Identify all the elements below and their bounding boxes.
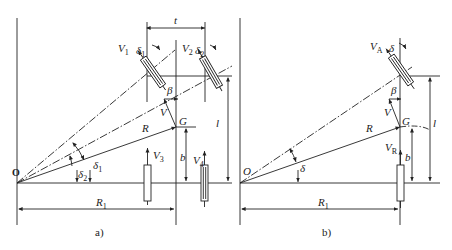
rear-left-wheel [144,148,151,205]
label-delta2: δ2 [78,169,87,183]
label-v1: V1 [118,43,129,57]
label-r1-b: R1 [318,197,329,211]
label-delta1-top: δ1 [136,45,145,59]
label-beta-b: β [391,85,396,96]
ray-front [240,67,412,183]
label-wheelbase-b: l [433,118,436,129]
caption-a: a) [95,226,104,238]
label-b: b [180,152,186,163]
panel-b [240,18,440,225]
rear-wheel [397,150,404,208]
steering-geometry-figure: O G R V β t l b R1 V1 δ1 V2 δ2 V3 V4 δ2 … [0,0,452,250]
label-delta-b: δ [300,163,305,174]
label-wheelbase: l [216,118,219,129]
label-delta1: δ1 [93,160,102,174]
label-delta-top-b: δ [389,43,394,54]
label-b-b: b [405,152,411,163]
label-g: G [179,116,187,127]
label-v: V [160,107,167,118]
label-v3: V3 [153,150,164,164]
label-origin: O [12,168,20,178]
label-r-b: R [366,123,373,134]
label-r1: R1 [96,197,107,211]
label-delta2-top: δ2 [195,45,204,59]
label-vr: VR [385,142,397,156]
diagram-canvas [0,0,452,250]
radius-r [240,127,400,183]
label-r: R [142,123,149,134]
label-origin-b: O [243,166,251,177]
caption-b: b) [322,226,331,238]
label-v2: V2 [182,43,193,57]
label-v-b: V [384,107,391,118]
label-beta: β [167,85,172,96]
label-g-b: G [402,116,410,127]
label-va: VA [370,41,383,55]
label-v4: V4 [193,155,204,169]
label-track: t [174,15,177,26]
